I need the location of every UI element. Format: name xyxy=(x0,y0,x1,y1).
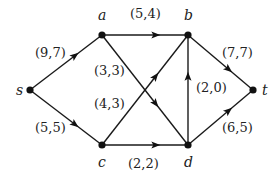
edge-s-a xyxy=(30,35,102,90)
node-t xyxy=(249,86,256,93)
node-b xyxy=(184,31,191,38)
edge-d-t xyxy=(188,90,253,145)
node-a xyxy=(98,31,105,38)
edge-label-a-b: (5,4) xyxy=(130,6,161,21)
node-label-t: t xyxy=(262,82,268,98)
edge-label-c-d: (2,2) xyxy=(128,156,159,171)
node-label-d: d xyxy=(184,154,193,170)
node-label-a: a xyxy=(98,7,106,23)
flow-network-diagram: (9,7)(5,5)(5,4)(3,3)(4,3)(2,2)(2,0)(7,7)… xyxy=(0,0,279,180)
edge-label-d-t: (6,5) xyxy=(222,120,253,135)
node-s xyxy=(26,86,33,93)
edge-label-d-b: (2,0) xyxy=(196,80,227,95)
edge-label-c-b: (4,3) xyxy=(94,96,125,111)
node-label-c: c xyxy=(98,154,106,170)
node-d xyxy=(184,141,191,148)
labels: (9,7)(5,5)(5,4)(3,3)(4,3)(2,2)(2,0)(7,7)… xyxy=(16,6,268,171)
node-label-b: b xyxy=(184,7,193,23)
edge-label-a-d: (3,3) xyxy=(94,63,125,78)
node-label-s: s xyxy=(16,82,23,98)
edge-label-s-a: (9,7) xyxy=(35,45,66,60)
edge-label-s-c: (5,5) xyxy=(35,120,66,135)
node-c xyxy=(98,141,105,148)
edge-label-b-t: (7,7) xyxy=(222,45,253,60)
edge-s-c xyxy=(30,90,102,145)
